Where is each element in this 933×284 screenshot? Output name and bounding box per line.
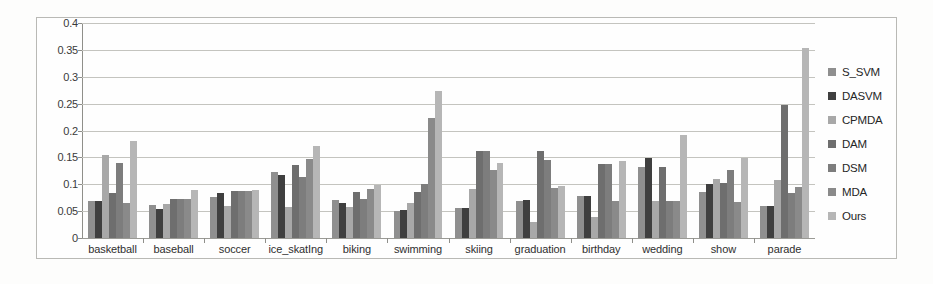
x-axis-category-label: graduation (510, 243, 571, 255)
bar-ours-wedding (680, 135, 687, 238)
x-axis-category-label: show (693, 243, 754, 255)
legend-label: S_SVM (842, 66, 880, 78)
bar-group (265, 23, 326, 238)
bar-ours-biking (374, 185, 381, 238)
bar-mda-baseball (184, 199, 191, 238)
bar-s-svm-biking (332, 200, 339, 238)
legend-label: DASVM (842, 90, 882, 102)
x-axis-category-label: parade (754, 243, 815, 255)
legend-swatch-icon (828, 116, 836, 124)
bar-cpmda-basketball (102, 155, 109, 238)
bar-dsm-soccer (238, 191, 245, 238)
y-axis-tick-label: 0.2 (63, 125, 78, 137)
bar-cpmda-ice_skating (285, 207, 292, 238)
legend-item-ours: Ours (828, 204, 924, 228)
legend-label: CPMDA (842, 114, 883, 126)
bar-dsm-ice_skating (299, 177, 306, 238)
bar-mda-birthday (612, 201, 619, 238)
bar-dam-swimming (414, 192, 421, 238)
bar-s-svm-baseball (149, 205, 156, 238)
bar-group (387, 23, 448, 238)
bar-group-bars (271, 23, 320, 238)
bar-dam-baseball (170, 199, 177, 238)
bar-dam-skiing (476, 151, 483, 238)
x-axis-category-label: baseball (143, 243, 204, 255)
bar-group (449, 23, 510, 238)
bar-group-bars (149, 23, 198, 238)
legend-swatch-icon (828, 140, 836, 148)
bar-group (571, 23, 632, 238)
bar-dasvm-wedding (645, 158, 652, 238)
bar-ours-parade (802, 48, 809, 238)
bar-dsm-show (727, 170, 734, 238)
bar-dam-soccer (231, 191, 238, 238)
bar-group-bars (516, 23, 565, 238)
bar-ours-birthday (619, 161, 626, 238)
x-axis-category-label: skiing (449, 243, 510, 255)
bar-group (326, 23, 387, 238)
bar-dasvm-biking (339, 203, 346, 238)
bar-mda-basketball (123, 203, 130, 238)
x-axis-category-label: basketball (82, 243, 143, 255)
bar-cpmda-baseball (163, 204, 170, 238)
bar-cpmda-parade (774, 180, 781, 238)
bar-dsm-skiing (483, 151, 490, 238)
bar-group-bars (88, 23, 137, 238)
bar-group-bars (455, 23, 504, 238)
bar-s-svm-basketball (88, 201, 95, 238)
bar-group (632, 23, 693, 238)
y-axis-tick-label: 0.1 (63, 178, 78, 190)
legend-label: DSM (842, 162, 867, 174)
bar-mda-show (734, 202, 741, 238)
bar-dsm-biking (360, 199, 367, 238)
legend-item-dsm: DSM (828, 156, 924, 180)
chart-figure: 00.050.10.150.20.250.30.350.4 basketball… (0, 0, 933, 284)
y-axis-tick-label: 0.4 (63, 17, 78, 29)
bar-dsm-parade (788, 193, 795, 238)
bar-cpmda-birthday (591, 217, 598, 239)
bar-ours-graduation (558, 186, 565, 238)
bar-group-bars (760, 23, 809, 238)
bar-s-svm-soccer (210, 197, 217, 238)
bar-s-svm-wedding (638, 167, 645, 238)
bar-group-bars (210, 23, 259, 238)
bar-dam-basketball (109, 193, 116, 238)
legend-label: DAM (842, 138, 867, 150)
bar-mda-ice_skating (306, 159, 313, 238)
bar-dam-birthday (598, 164, 605, 238)
bar-mda-graduation (551, 188, 558, 238)
bar-dam-graduation (537, 151, 544, 238)
bar-s-svm-skiing (455, 208, 462, 238)
bar-s-svm-ice_skating (271, 172, 278, 238)
bar-dam-parade (781, 105, 788, 238)
bar-dsm-baseball (177, 199, 184, 238)
bar-ours-skiing (497, 163, 504, 238)
bar-group (693, 23, 754, 238)
bar-dasvm-soccer (217, 193, 224, 238)
bar-ours-baseball (191, 190, 198, 238)
bar-s-svm-birthday (577, 196, 584, 238)
bar-dasvm-baseball (156, 209, 163, 238)
bar-s-svm-swimming (394, 211, 401, 238)
legend-label: MDA (842, 186, 867, 198)
bar-dasvm-ice_skating (278, 175, 285, 238)
bar-s-svm-parade (760, 206, 767, 238)
legend-item-dam: DAM (828, 132, 924, 156)
bar-mda-parade (795, 187, 802, 238)
legend-swatch-icon (828, 92, 836, 100)
legend-item-dasvm: DASVM (828, 84, 924, 108)
bar-dasvm-basketball (95, 201, 102, 238)
bar-s-svm-graduation (516, 201, 523, 238)
x-axis-category-label: soccer (204, 243, 265, 255)
x-axis-category-label: ice_skatIng (265, 243, 326, 255)
bar-dasvm-show (706, 184, 713, 238)
bar-dsm-basketball (116, 163, 123, 238)
bar-dasvm-parade (767, 206, 774, 238)
bar-group (143, 23, 204, 238)
bar-cpmda-wedding (652, 201, 659, 238)
bar-group-bars (577, 23, 626, 238)
bar-dam-ice_skating (292, 165, 299, 238)
bar-group-bars (699, 23, 748, 238)
bar-dasvm-birthday (584, 196, 591, 238)
bar-dsm-swimming (421, 184, 428, 238)
